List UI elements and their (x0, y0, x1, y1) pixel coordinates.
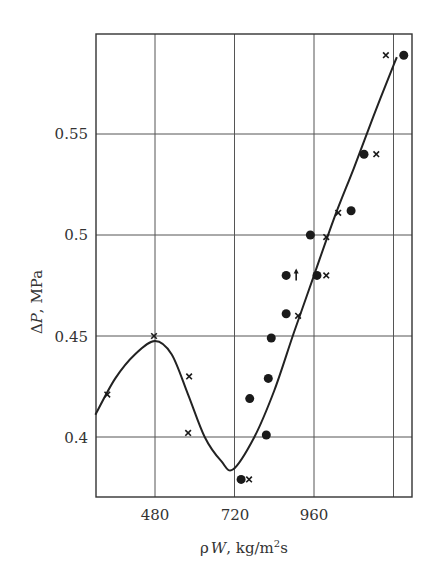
y-tick-label: 0.4 (64, 429, 88, 447)
data-markers (105, 51, 409, 484)
arrow-up-icon (294, 268, 299, 280)
x-axis-title-end: s (280, 539, 288, 557)
data-point-circle (267, 334, 276, 343)
data-point-circle (282, 271, 291, 280)
plot-frame (96, 34, 412, 497)
data-point-cross (373, 151, 379, 157)
data-point-circle (237, 475, 246, 484)
y-tick-label: 0.5 (64, 226, 88, 244)
chart: 0.55 0.5 0.45 0.4 480 720 960 ρW, kg/m2s… (0, 0, 435, 584)
y-tick-label: 0.45 (55, 328, 88, 346)
data-point-circle (312, 271, 321, 280)
data-point-circle (264, 374, 273, 383)
data-point-circle (262, 430, 271, 439)
data-point-cross (186, 374, 192, 380)
data-point-cross (185, 430, 191, 436)
fitted-curve (95, 57, 396, 470)
data-point-cross (323, 273, 329, 279)
y-axis-title-unit: , MPa (28, 270, 46, 313)
x-axis-title-rho: ρ (200, 539, 209, 557)
y-axis-title: ΔP, MPa (28, 270, 46, 334)
data-point-cross (383, 52, 389, 58)
data-point-circle (347, 206, 356, 215)
data-point-circle (245, 394, 254, 403)
data-point-circle (282, 309, 291, 318)
data-point-circle (360, 150, 369, 159)
x-axis-title: ρW, kg/m2s (200, 538, 288, 557)
y-axis-title-delta: Δ (28, 323, 46, 334)
y-tick-label: 0.55 (55, 125, 88, 143)
data-point-circle (399, 51, 408, 60)
x-tick-label: 960 (300, 506, 329, 524)
x-axis-title-unit: , kg/m (226, 539, 274, 557)
data-point-cross (246, 477, 252, 483)
gridlines (96, 34, 412, 497)
data-point-circle (306, 231, 315, 240)
x-tick-label: 480 (141, 506, 170, 524)
x-tick-label: 720 (221, 506, 250, 524)
